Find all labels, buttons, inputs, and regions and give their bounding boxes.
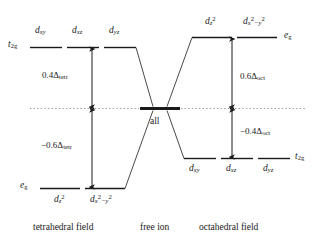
tet-orbital-label-dxz: dxz (72, 26, 82, 36)
tet-upper-splitting-energy-label: 0.4Δtetr (42, 71, 68, 81)
oct-t2g-term-label: t2g (295, 152, 304, 162)
tet-orbital-label-dx2y2: dx2−y2 (90, 194, 112, 205)
oct-orbital-label-dxy: dxy (189, 164, 200, 174)
caption-free-ion: free ion (140, 223, 169, 233)
oct-orbital-label-dxz: dxz (226, 164, 236, 174)
oct-orbital-label-dx2y2: dx2−y2 (243, 16, 265, 27)
oct-upper-splitting-energy-label: 0.6Δoct (240, 72, 265, 82)
caption-octahedral-field: octahedral field (199, 223, 258, 233)
oct-eg-term-label: eg (284, 31, 292, 41)
tet-t2g-term-label: t2g (8, 40, 17, 50)
oct-lower-splitting-energy-label: −0.4Δoct (240, 127, 270, 137)
tet-eg-term-label: eg (20, 181, 28, 191)
correlation-line-oct-eg (167, 38, 192, 107)
tet-orbital-label-dyz: dyz (109, 26, 119, 36)
free-ion-level-label: all (150, 117, 160, 127)
correlation-line-tet-t2g (136, 48, 153, 107)
diagram-lines-layer (0, 0, 320, 246)
tet-lower-splitting-energy-label: −0.6Δtetr (41, 141, 72, 151)
crystal-field-splitting-diagram: t2g dxy dxz dyz 0.4Δtetr −0.6Δtetr eg dz… (0, 0, 320, 246)
tet-orbital-label-dxy: dxy (35, 26, 46, 36)
caption-tetrahedral-field: tetrahedral field (33, 223, 93, 233)
correlation-line-oct-t2g (167, 111, 184, 159)
oct-orbital-label-dz2: dz2 (205, 16, 216, 27)
correlation-line-tet-eg (125, 111, 153, 189)
oct-orbital-label-dyz: dyz (263, 164, 273, 174)
tet-orbital-label-dz2: dz2 (54, 194, 65, 205)
